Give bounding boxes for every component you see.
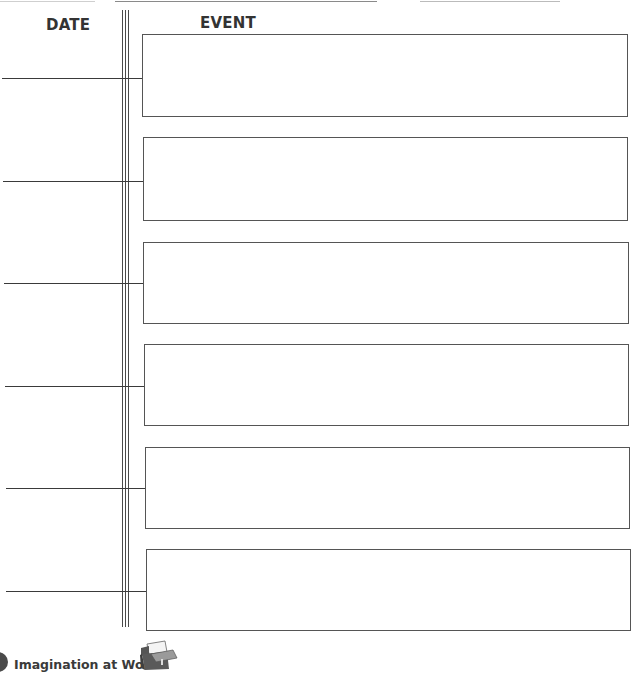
- event-entry-box[interactable]: [143, 242, 629, 324]
- page-number-circle: [0, 652, 8, 672]
- date-entry-line[interactable]: [6, 488, 146, 489]
- timeline-line-1: [122, 10, 123, 627]
- top-rule-middle: [115, 1, 377, 2]
- date-entry-line[interactable]: [6, 591, 147, 592]
- footer-label: Imagination at Work: [14, 657, 158, 672]
- date-column-header: DATE: [46, 16, 90, 34]
- date-entry-line[interactable]: [4, 283, 144, 284]
- event-entry-box[interactable]: [144, 344, 629, 426]
- event-entry-box[interactable]: [142, 34, 628, 117]
- event-entry-box[interactable]: [145, 447, 630, 529]
- timeline-line-3: [128, 10, 129, 627]
- event-entry-box[interactable]: [143, 137, 628, 221]
- event-entry-box[interactable]: [146, 549, 631, 631]
- date-entry-line[interactable]: [5, 386, 145, 387]
- event-column-header: EVENT: [200, 14, 256, 32]
- date-entry-line[interactable]: [2, 78, 143, 79]
- top-rule-right: [420, 1, 560, 2]
- file-box-icon: [139, 640, 179, 672]
- date-entry-line[interactable]: [3, 181, 144, 182]
- timeline-line-2: [125, 10, 126, 627]
- top-rule-left: [0, 1, 95, 2]
